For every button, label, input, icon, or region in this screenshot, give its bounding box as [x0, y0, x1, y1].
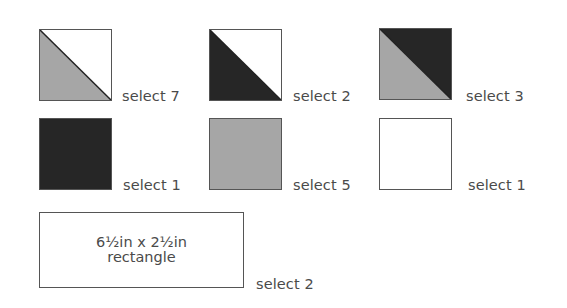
hst-gray-dark-swatch — [379, 28, 452, 100]
half-square-triangle-gray-dark-icon — [380, 29, 451, 99]
half-square-triangle-dark-white-icon — [210, 30, 281, 100]
hst-dark-white-swatch — [209, 29, 282, 101]
quantity-label-hst-gray-dark: select 3 — [466, 89, 524, 104]
half-square-triangle-gray-white-icon — [40, 30, 111, 100]
rectangle-dimensions: 6½in x 2½in — [96, 235, 187, 250]
hst-gray-white-swatch — [39, 29, 112, 101]
quantity-label-solid-dark: select 1 — [123, 178, 181, 193]
solid-white-swatch — [379, 118, 452, 190]
solid-dark-swatch — [39, 118, 112, 190]
quantity-label-hst-dark-white: select 2 — [293, 89, 351, 104]
quantity-label-rectangle: select 2 — [256, 277, 314, 292]
rectangle-piece: 6½in x 2½in rectangle — [39, 212, 244, 288]
quantity-label-solid-gray: select 5 — [293, 178, 351, 193]
solid-gray-swatch — [209, 118, 282, 190]
rectangle-name: rectangle — [107, 250, 175, 265]
quantity-label-solid-white: select 1 — [468, 178, 526, 193]
quantity-label-hst-gray-white: select 7 — [122, 89, 180, 104]
